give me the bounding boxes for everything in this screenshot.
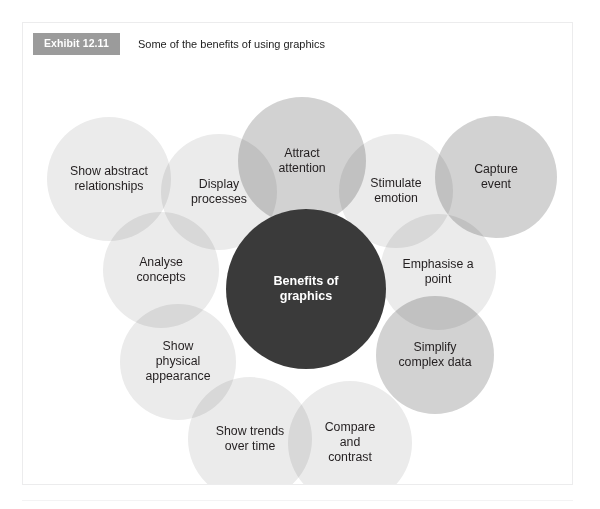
bubble-label-attract-attention: Attractattention bbox=[278, 146, 325, 175]
bubble-label-analyse-concepts: Analyseconcepts bbox=[136, 255, 185, 284]
exhibit-number-badge: Exhibit 12.11 bbox=[33, 33, 120, 55]
bubble-label-show-trends-over-time: Show trendsover time bbox=[216, 424, 284, 453]
bubble-label-display-processes: Displayprocesses bbox=[191, 177, 247, 206]
exhibit-header: Exhibit 12.11 Some of the benefits of us… bbox=[33, 33, 325, 55]
bubble-label-stimulate-emotion: Stimulateemotion bbox=[370, 176, 421, 205]
venn-circles-svg: Show abstractrelationshipsDisplayprocess… bbox=[23, 67, 572, 484]
exhibit-caption: Some of the benefits of using graphics bbox=[138, 38, 325, 50]
footer-rule bbox=[22, 500, 573, 501]
benefits-of-graphics-diagram: Show abstractrelationshipsDisplayprocess… bbox=[23, 67, 572, 484]
exhibit-panel: Exhibit 12.11 Some of the benefits of us… bbox=[22, 22, 573, 485]
bubble-label-show-abstract-relationships: Show abstractrelationships bbox=[70, 164, 149, 193]
bubble-label-benefits-of-graphics: Benefits ofgraphics bbox=[273, 274, 339, 303]
